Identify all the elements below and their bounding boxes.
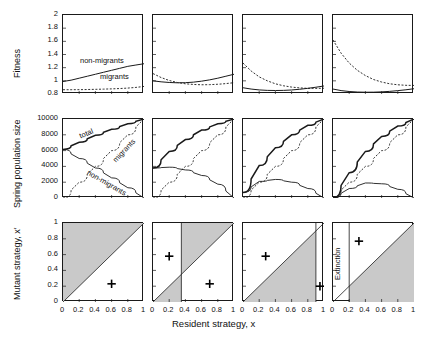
y-tick-label: 1 xyxy=(0,75,58,84)
panel-fitness-1 xyxy=(152,14,233,93)
x-tick-label: 0.2 xyxy=(340,305,356,314)
x-tick-label: 1 xyxy=(405,305,421,314)
x-tick-label: 0.2 xyxy=(160,305,176,314)
x-tick-label: 0.8 xyxy=(119,305,135,314)
x-axis-label-resident-strategy: Resident strategy, x xyxy=(172,318,255,329)
y-tick-label: 1 xyxy=(0,217,58,226)
y-tick-label: 0.6 xyxy=(0,249,58,258)
y-tick-label: 0.4 xyxy=(0,264,58,273)
x-tick-label: 0.2 xyxy=(70,305,86,314)
x-tick-label: 0.6 xyxy=(193,305,209,314)
x-tick-label: 1 xyxy=(225,305,241,314)
panel-pip-1 xyxy=(152,222,233,301)
figure-canvas: FitnessSpring population sizeMutant stra… xyxy=(0,0,434,340)
y-tick-label: 0 xyxy=(0,296,58,305)
y-tick-label: 1.8 xyxy=(0,22,58,31)
panel-population-3 xyxy=(332,118,413,197)
x-tick-label: 0.4 xyxy=(86,305,102,314)
panel-fitness-2 xyxy=(242,14,323,93)
panel-pip-2 xyxy=(242,222,323,301)
y-tick-label: 1.4 xyxy=(0,49,58,58)
y-tick-label: 0.8 xyxy=(0,233,58,242)
x-tick-label: 0.6 xyxy=(103,305,119,314)
x-tick-label: 0.8 xyxy=(299,305,315,314)
y-tick-label: 8000 xyxy=(0,129,58,138)
y-tick-label: 0.8 xyxy=(0,88,58,97)
panel-population-2 xyxy=(242,118,323,197)
x-tick-label: 0.8 xyxy=(209,305,225,314)
x-tick-label: 0.4 xyxy=(356,305,372,314)
y-tick-label: 4000 xyxy=(0,160,58,169)
x-tick-label: 0.4 xyxy=(176,305,192,314)
panel-population-1 xyxy=(152,118,233,197)
y-tick-label: 0.2 xyxy=(0,280,58,289)
y-tick-label: 10000 xyxy=(0,113,58,122)
y-tick-label: 1.6 xyxy=(0,35,58,44)
curve-label-migrants-fitness: migrants xyxy=(100,72,129,81)
panel-pip-3 xyxy=(332,222,413,301)
x-tick-label: 0.4 xyxy=(266,305,282,314)
y-tick-label: 2 xyxy=(0,9,58,18)
y-tick-label: 2000 xyxy=(0,176,58,185)
y-tick-label: 6000 xyxy=(0,145,58,154)
panel-fitness-0 xyxy=(62,14,143,93)
y-tick-label: 0 xyxy=(0,192,58,201)
x-tick-label: 0.8 xyxy=(389,305,405,314)
panel-fitness-3 xyxy=(332,14,413,93)
curve-label-non-migrants-fitness: non-migrants xyxy=(80,56,124,65)
x-tick-label: 0.2 xyxy=(250,305,266,314)
x-tick-label: 1 xyxy=(135,305,151,314)
extinction-annotation: Extinction xyxy=(333,247,342,280)
x-tick-label: 1 xyxy=(315,305,331,314)
panel-pip-0 xyxy=(62,222,143,301)
x-tick-label: 0 xyxy=(54,305,70,314)
y-tick-label: 1.2 xyxy=(0,62,58,71)
x-tick-label: 0.6 xyxy=(283,305,299,314)
x-tick-label: 0.6 xyxy=(373,305,389,314)
